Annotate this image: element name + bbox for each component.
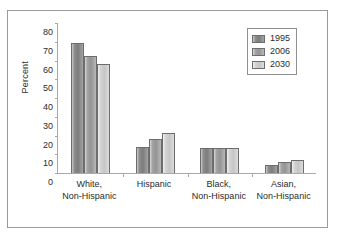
bar-group (123, 23, 188, 173)
x-axis-category-label: White,Non-Hispanic (57, 178, 122, 202)
legend-item[interactable]: 2030 (252, 58, 290, 71)
x-axis-labels: White,Non-HispanicHispanicBlack,Non-Hisp… (57, 178, 316, 218)
y-axis-tick-label: 20 (43, 140, 58, 149)
x-axis-label-line: Asian, (251, 178, 316, 190)
x-axis-label-line: Non-Hispanic (251, 190, 316, 202)
bar[interactable] (136, 147, 149, 173)
x-axis-tick-mark (252, 173, 253, 177)
y-axis-tick-label: 40 (43, 103, 58, 112)
x-axis-category-label: Asian,Non-Hispanic (251, 178, 316, 202)
legend-item[interactable]: 2006 (252, 45, 290, 58)
y-axis-tick-mark (55, 173, 58, 174)
x-axis-label-line: Non-Hispanic (187, 190, 252, 202)
y-axis-tick-label: 30 (43, 121, 58, 130)
bar[interactable] (291, 160, 304, 173)
x-axis-label-line: White, (57, 178, 122, 190)
chart-legend: 199520062030 (247, 28, 297, 75)
legend-label: 2030 (270, 60, 290, 69)
y-axis-tick-label: 60 (43, 65, 58, 74)
bar[interactable] (265, 165, 278, 173)
y-axis-tick-label: 80 (43, 28, 58, 37)
y-axis-tick-label: 70 (43, 46, 58, 55)
legend-swatch-icon (252, 48, 265, 56)
x-axis-label-line: Hispanic (122, 178, 187, 190)
bar[interactable] (84, 56, 97, 173)
legend-swatch-icon (252, 35, 265, 43)
x-axis-category-label: Black,Non-Hispanic (187, 178, 252, 202)
x-axis-label-line: Non-Hispanic (57, 190, 122, 202)
x-axis-tick-mark (188, 173, 189, 177)
bar[interactable] (213, 148, 226, 173)
bar[interactable] (200, 148, 213, 173)
bar-group (58, 23, 123, 173)
bar[interactable] (71, 43, 84, 173)
legend-swatch-icon (252, 61, 265, 69)
bar[interactable] (97, 64, 110, 173)
bar-group (188, 23, 253, 173)
bar[interactable] (226, 148, 239, 173)
legend-label: 1995 (270, 34, 290, 43)
bar[interactable] (278, 162, 291, 173)
y-axis-title: Percent (20, 61, 34, 93)
legend-label: 2006 (270, 47, 290, 56)
x-axis-category-label: Hispanic (122, 178, 187, 190)
legend-item[interactable]: 1995 (252, 32, 290, 45)
x-axis-tick-mark (123, 173, 124, 177)
y-axis-tick-label: 50 (43, 84, 58, 93)
y-axis-tick-label: 10 (43, 159, 58, 168)
x-axis-label-line: Black, (187, 178, 252, 190)
bar[interactable] (162, 133, 175, 173)
bar[interactable] (149, 139, 162, 173)
chart-frame: Percent 01020304050607080 White,Non-Hisp… (7, 10, 328, 228)
